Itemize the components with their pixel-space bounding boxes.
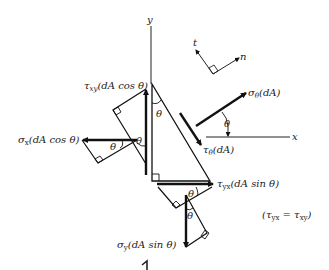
tau-yx-label: τyx(dA sin θ) <box>217 178 279 191</box>
local-axes-icon <box>196 50 239 74</box>
theta-label-main: θ <box>156 108 162 119</box>
sigma-x-label: σx(dA cos θ) <box>18 134 79 147</box>
tau-equality-relation: (τyx = τxy) <box>262 209 312 222</box>
theta-label-tau-yx: θ <box>188 188 194 199</box>
page-mark <box>142 261 147 270</box>
y-axis-label: y <box>146 14 153 25</box>
x-axis-label: x <box>292 131 298 142</box>
stress-diagram: y x t n θ θ τxy(dA cos θ) θ σx(dA cos θ) <box>0 0 329 270</box>
tau-theta-label: τθ(dA) <box>203 144 234 157</box>
tau-theta-vector <box>180 113 201 145</box>
theta-label-sigma-y: θ <box>187 210 193 221</box>
n-axis-label: n <box>240 51 246 62</box>
sigma-theta-label: σθ(dA) <box>248 87 281 100</box>
t-axis-label: t <box>193 37 198 48</box>
sigma-y-vector <box>186 195 209 247</box>
tau-xy-label: τxy(dA cos θ) <box>84 80 148 93</box>
tau-xy-vector <box>113 89 146 175</box>
element-triangle <box>152 84 210 181</box>
theta-label-sigma-x: θ <box>110 141 116 152</box>
theta-label-sigma-theta: θ <box>224 118 230 129</box>
sigma-theta-vector <box>196 93 246 136</box>
sigma-y-label: σy(dA sin θ) <box>117 239 176 252</box>
